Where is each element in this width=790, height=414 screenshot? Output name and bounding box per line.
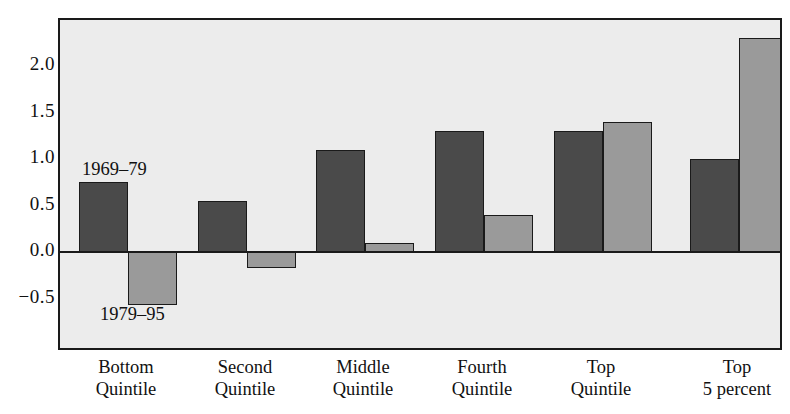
x-axis-label-line: Top (657, 356, 790, 378)
y-axis-tick-label: −0.5 (19, 287, 55, 306)
bar-2-series-1 (365, 243, 414, 252)
x-axis-label-5: Top5 percent (657, 356, 790, 400)
x-axis-label-line: 5 percent (657, 378, 790, 400)
bar-1-series-0 (198, 201, 247, 252)
plot-area (58, 18, 782, 350)
bar-chart: 2.01.51.00.50.0−0.5 1969–791979–95 Botto… (0, 0, 790, 414)
bar-4-series-1 (603, 122, 652, 252)
bar-0-series-1 (128, 252, 177, 305)
bar-3-series-1 (484, 215, 533, 252)
y-axis-tick-label: 1.0 (30, 147, 55, 166)
series-annotation-1: 1969–79 (82, 160, 147, 179)
bar-1-series-1 (247, 252, 296, 268)
bar-5-series-0 (690, 159, 739, 252)
y-axis-tick-label: 2.0 (30, 54, 55, 73)
y-axis-tick-label: 0.5 (30, 194, 55, 213)
bar-3-series-0 (435, 131, 484, 252)
bar-4-series-0 (554, 131, 603, 252)
bar-5-series-1 (739, 38, 782, 252)
y-axis-tick-label: 1.5 (30, 101, 55, 120)
bar-2-series-0 (316, 150, 365, 252)
y-axis-tick-label: 0.0 (30, 240, 55, 259)
bar-0-series-0 (79, 182, 128, 252)
series-annotation-2: 1979–95 (100, 305, 165, 324)
